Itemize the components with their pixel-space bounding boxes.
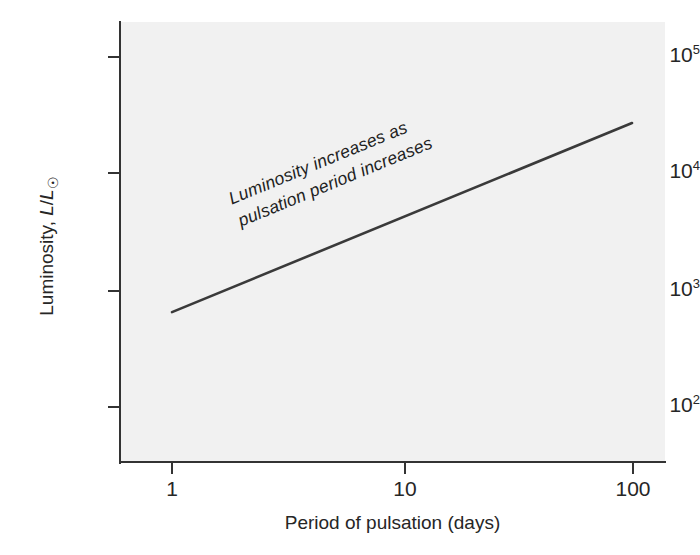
y-tick-mark-1000	[108, 290, 119, 292]
y-tick-mark-100	[108, 406, 119, 408]
y-tick-mantissa: 10	[669, 43, 692, 66]
y-tick-mantissa: 10	[669, 277, 692, 300]
x-axis-line	[119, 461, 666, 463]
y-axis-title-symbol-l-sun: L	[36, 189, 57, 200]
plot-area	[120, 22, 665, 462]
y-tick-mantissa: 10	[669, 159, 692, 182]
y-tick-label-100: 102	[634, 394, 700, 415]
sun-symbol-icon: ☉	[46, 176, 61, 189]
y-tick-exponent: 5	[693, 42, 700, 57]
y-axis-title-slash: /	[36, 200, 57, 205]
y-tick-mark-100000	[108, 56, 119, 58]
x-tick-label-1: 1	[132, 478, 212, 499]
y-tick-mark-10000	[108, 172, 119, 174]
x-tick-mark-1	[171, 462, 173, 474]
chart-figure: 105 104 103 102 1 10 100 Luminosity incr…	[0, 0, 700, 555]
x-tick-mark-10	[404, 462, 406, 474]
y-axis-title-lead: Luminosity,	[36, 216, 57, 316]
y-tick-mantissa: 10	[669, 393, 692, 416]
y-tick-label-1000: 103	[634, 278, 700, 299]
y-axis-line	[119, 21, 121, 464]
y-tick-exponent: 2	[693, 392, 700, 407]
y-tick-exponent: 3	[693, 276, 700, 291]
x-tick-label-100: 100	[593, 478, 673, 499]
y-tick-label-100000: 105	[634, 44, 700, 65]
y-axis-title-symbol-l: L	[36, 205, 57, 216]
y-tick-exponent: 4	[693, 158, 700, 173]
x-tick-mark-100	[632, 462, 634, 474]
x-tick-label-10: 10	[365, 478, 445, 499]
y-axis-title: Luminosity, L/L☉	[36, 116, 58, 376]
y-tick-label-10000: 104	[634, 160, 700, 181]
x-axis-title: Period of pulsation (days)	[120, 512, 665, 534]
